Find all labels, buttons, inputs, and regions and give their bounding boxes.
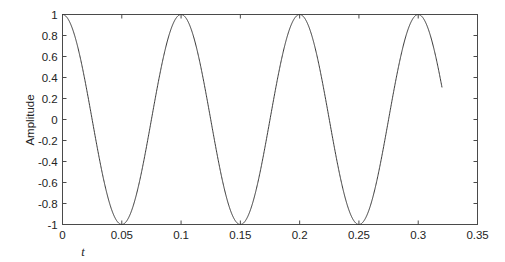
y-tick-label: 0.4 xyxy=(42,72,58,84)
y-tick-label: -0.8 xyxy=(38,198,57,210)
figure-container: 10.80.60.40.20-0.2-0.4-0.6-0.8-1 00.050.… xyxy=(0,0,505,262)
x-tick-label: 0 xyxy=(59,229,65,241)
data-series-cosine xyxy=(63,15,442,225)
y-tick-label: 0.6 xyxy=(42,51,58,63)
y-tick-label: -0.4 xyxy=(38,156,57,168)
y-tick-label: -0.2 xyxy=(38,135,57,147)
y-tick-label: 0 xyxy=(51,114,57,126)
x-tick-label: 0.05 xyxy=(111,229,133,241)
x-tick-label: 0.15 xyxy=(229,229,251,241)
x-tick-label: 0.1 xyxy=(173,229,189,241)
y-tick-label: -1 xyxy=(47,219,57,231)
y-tick-label: 1 xyxy=(51,9,57,21)
x-tick-label: 0.35 xyxy=(467,229,489,241)
y-tick-label: -0.6 xyxy=(38,177,57,189)
x-axis-title: t xyxy=(81,245,84,260)
y-axis-title: Amplitude xyxy=(24,94,36,145)
x-tick-label: 0.3 xyxy=(410,229,426,241)
y-tick-label: 0.2 xyxy=(42,93,58,105)
cosine-plot xyxy=(0,0,505,262)
x-tick-label: 0.2 xyxy=(292,229,308,241)
x-tick-label: 0.25 xyxy=(348,229,370,241)
y-tick-label: 0.8 xyxy=(42,30,58,42)
